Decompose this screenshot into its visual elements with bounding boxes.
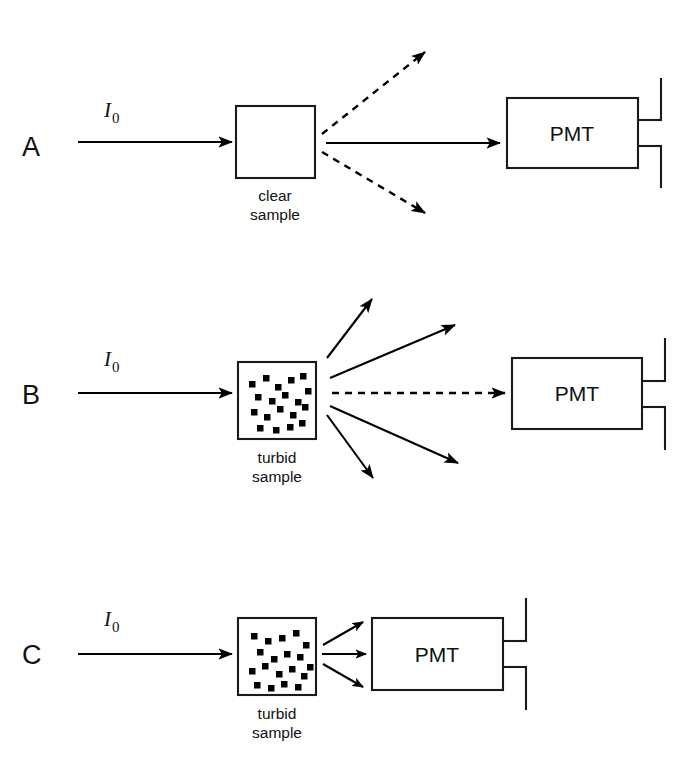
panel-b-pmt-label: PMT xyxy=(555,382,600,405)
sample-particle xyxy=(290,412,297,419)
sample-particle xyxy=(307,664,314,671)
sample-particle xyxy=(282,392,289,399)
sample-particle xyxy=(264,414,271,421)
sample-particle xyxy=(257,425,264,432)
panel-a-beam-label-sub: 0 xyxy=(112,110,120,126)
sample-particle xyxy=(257,649,264,656)
sample-particle xyxy=(287,424,294,431)
sample-particle xyxy=(277,406,284,413)
panel-b-beam-label-sub: 0 xyxy=(112,359,120,375)
panel-a-sample-caption-line1: clear xyxy=(258,187,292,204)
panel-b-sample-caption-line2: sample xyxy=(252,468,302,485)
panel-c-label: C xyxy=(22,640,42,670)
sample-particle xyxy=(268,685,275,692)
sample-particle xyxy=(249,668,256,675)
sample-particle xyxy=(276,671,283,678)
panel-a-pmt-label: PMT xyxy=(550,122,595,145)
sample-particle xyxy=(297,654,304,661)
scattering-diagram: A I0 clear sample PMT B I0 turbid sample xyxy=(0,0,695,761)
sample-particle xyxy=(293,630,300,637)
sample-particle xyxy=(284,651,291,658)
panel-b-beam-label-main: I xyxy=(103,347,112,371)
panel-b-sample-caption-line1: turbid xyxy=(258,449,297,466)
sample-particle xyxy=(289,666,296,673)
panel-b-label: B xyxy=(22,380,40,410)
sample-particle xyxy=(295,684,302,691)
sample-particle xyxy=(305,388,312,395)
sample-particle xyxy=(279,635,286,642)
sample-particle xyxy=(299,420,306,427)
sample-particle xyxy=(303,642,310,649)
sample-particle xyxy=(254,682,261,689)
panel-a-sample-caption-line2: sample xyxy=(250,206,300,223)
sample-particle xyxy=(275,384,282,391)
sample-particle xyxy=(251,409,258,416)
sample-particle xyxy=(251,633,258,640)
panel-c-pmt-label: PMT xyxy=(415,643,460,666)
sample-particle xyxy=(271,656,278,663)
panel-a-sample-box xyxy=(236,106,315,178)
panel-c-beam-label-sub: 0 xyxy=(112,619,120,635)
sample-particle xyxy=(301,673,308,680)
panel-a-beam-label-main: I xyxy=(103,98,112,122)
sample-particle xyxy=(263,375,270,382)
sample-particle xyxy=(273,427,280,434)
sample-particle xyxy=(288,377,295,384)
sample-particle xyxy=(255,394,262,401)
sample-particle xyxy=(269,398,276,405)
sample-particle xyxy=(262,663,269,670)
sample-particle xyxy=(281,681,288,688)
sample-particle xyxy=(265,638,272,645)
panel-c-sample-caption-line2: sample xyxy=(252,724,302,741)
panel-c-beam-label-main: I xyxy=(103,607,112,631)
sample-particle xyxy=(302,404,309,411)
sample-particle xyxy=(249,381,256,388)
sample-particle xyxy=(295,399,302,406)
sample-particle xyxy=(300,373,307,380)
panel-a-label: A xyxy=(22,132,40,162)
panel-c-sample-caption-line1: turbid xyxy=(258,705,297,722)
